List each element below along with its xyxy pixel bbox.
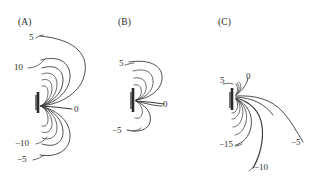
contour-a-lower-1 (40, 106, 70, 156)
contour-label-a-neg5: −5 (17, 155, 27, 164)
panel-b: (B) 5 0 −5 (105, 0, 205, 181)
contour-c-neg5 (236, 96, 303, 142)
panel-c-plot (205, 0, 316, 181)
contour-a-lower-4 (41, 106, 52, 133)
contour-a-5 (40, 36, 85, 106)
panel-b-plot (105, 0, 205, 181)
contour-label-b-0: 0 (163, 100, 168, 109)
leader-a-10 (28, 60, 44, 68)
figure-canvas: (A) (0, 0, 316, 181)
contour-label-a-neg10: −10 (15, 139, 29, 148)
contour-label-c-0: 0 (246, 72, 251, 81)
contour-a-lower-3 (41, 106, 57, 139)
panel-a: (A) (0, 0, 110, 181)
panel-c: (C) 5 0 −1 (205, 0, 316, 181)
leader-b-5 (125, 63, 134, 65)
contour-label-c-5: 5 (220, 76, 225, 85)
contour-label-b-5: 5 (119, 59, 124, 68)
contour-label-a-5: 5 (29, 33, 34, 42)
contour-label-c-neg10: −10 (254, 163, 268, 172)
leader-a-neg10 (36, 137, 47, 144)
contour-label-c-neg5: −5 (291, 138, 301, 147)
contour-label-a-10: 10 (14, 63, 23, 72)
contour-label-c-neg15: −15 (219, 140, 233, 149)
contour-label-a-0: 0 (74, 105, 79, 114)
contour-a-upper-4 (41, 79, 52, 106)
contour-label-b-neg5: −5 (112, 126, 122, 135)
